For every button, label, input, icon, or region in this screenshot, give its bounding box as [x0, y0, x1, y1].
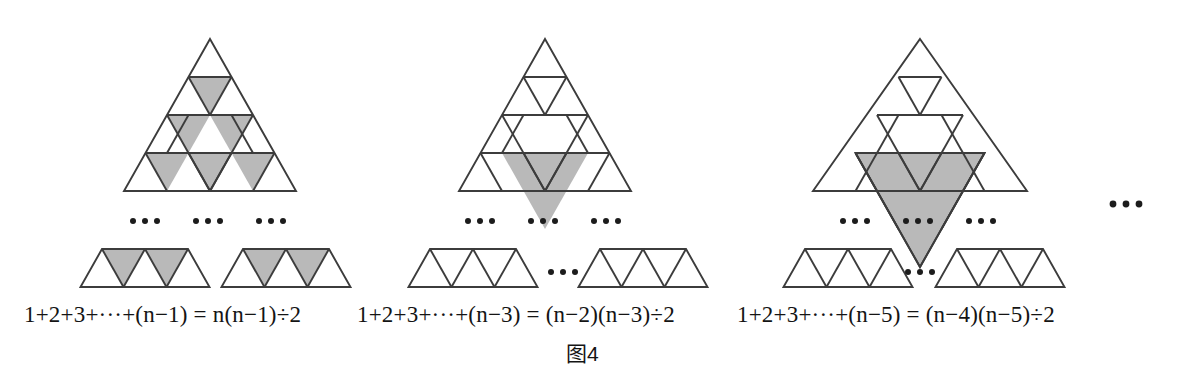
panel-2-big-triangle [459, 39, 631, 229]
panel-1-strip-b [222, 249, 351, 287]
panel-1-strip-a [81, 249, 210, 287]
ellipsis-2-right [591, 218, 621, 224]
trailing-ellipsis [1110, 201, 1143, 208]
ellipsis-2-mid [528, 218, 558, 224]
panel-2-strip-ellipsis [548, 269, 578, 275]
figure-root: .edge { fill: none; stroke: #3c3c3c; str… [0, 0, 1183, 368]
ellipsis-3-mid [903, 218, 933, 224]
panel-2-strip-b [579, 249, 708, 287]
panel-1-big-triangle [124, 39, 296, 191]
panel-1-ellipsis-row [130, 218, 286, 224]
figure-canvas: .edge { fill: none; stroke: #3c3c3c; str… [0, 0, 1183, 368]
ellipsis-1-left [130, 218, 160, 224]
panel-2-strip-a [409, 249, 538, 287]
panel-3-big-triangle [813, 39, 1027, 267]
panel-3-strip-ellipsis [905, 269, 935, 275]
panel-2-ellipsis-row [465, 218, 621, 224]
panel-3-strip-a [784, 249, 913, 287]
ellipsis-3-right [966, 218, 996, 224]
ellipsis-1-mid [193, 218, 223, 224]
ellipsis-3-left [840, 218, 870, 224]
ellipsis-2-left [465, 218, 495, 224]
ellipsis-1-right [256, 218, 286, 224]
panel-3-ellipsis-row [840, 218, 996, 224]
panel-3-strip-b [936, 249, 1065, 287]
panel-1-shaded-cells [146, 77, 275, 191]
